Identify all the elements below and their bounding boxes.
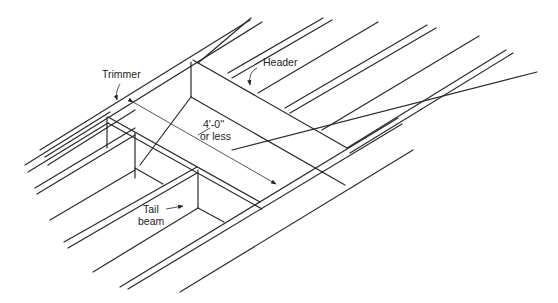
tail-beams [25,112,224,272]
lower-trimmer [120,118,413,292]
trimmer-leader [116,84,120,100]
floor-framing-diagram [0,0,558,303]
dimension-label-line1: 4'-0'' [203,118,224,130]
joists-beyond-header [198,18,537,153]
trimmer-label: Trimmer [102,68,141,80]
trimmer-joist [40,20,262,165]
tail-beam-leader [166,206,183,209]
tail-beam-label-line1: Tail [143,203,159,215]
tail-beam-label-line2: beam [138,215,164,227]
header-leader [250,68,257,85]
dimension-label-line2: or less [200,130,231,142]
header-label: Header [263,56,297,68]
